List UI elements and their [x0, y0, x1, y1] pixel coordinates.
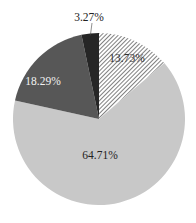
pie-slices	[13, 33, 185, 205]
slice-label: 13.73%	[109, 52, 145, 64]
slice-label: 3.27%	[74, 11, 104, 23]
pie-chart: 13.73%64.71%18.29%3.27%	[0, 0, 196, 223]
slice-label: 64.71%	[82, 149, 118, 161]
slice-label: 18.29%	[25, 75, 61, 87]
